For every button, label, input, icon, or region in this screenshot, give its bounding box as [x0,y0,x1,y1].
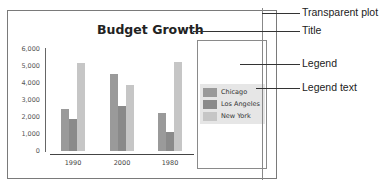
legend-item-chicago: Chicago [203,87,247,97]
legend-item-los-angeles: Los Angeles [203,99,260,109]
legend-label: New York [221,112,251,120]
bar-new-york-1980 [174,62,182,151]
bar-chicago-2000 [110,74,118,151]
legend-swatch [203,88,217,97]
y-tick-label: 5,000 [8,62,40,70]
legend: Chicago Los Angeles New York [200,84,265,124]
bar-los-angeles-2000 [118,106,126,151]
bar-new-york-2000 [126,85,134,151]
callout-legend: Legend [302,57,337,69]
bar-los-angeles-1980 [166,132,174,151]
y-axis [45,48,46,152]
legend-item-new-york: New York [203,111,251,121]
bar-chicago-1980 [158,113,166,151]
legend-label: Chicago [221,88,247,96]
x-axis [50,154,194,155]
y-tick-label: 1,000 [8,130,40,138]
bar-los-angeles-1990 [69,119,77,151]
callout-line-legend-text [256,88,300,89]
y-tick-label: 4,000 [8,79,40,87]
y-tick-label: 3,000 [8,96,40,104]
x-tick-label: 1990 [58,159,88,167]
y-tick-label: 2,000 [8,113,40,121]
legend-label: Los Angeles [221,100,260,108]
callout-line-transparent-plot [262,13,300,14]
callout-legend-text: Legend text [302,81,357,93]
x-tick-label: 2000 [107,159,137,167]
callout-transparent-plot: Transparent plot [302,6,378,18]
callout-title: Title [302,24,321,36]
x-tick-label: 1980 [155,159,185,167]
bar-chicago-1990 [61,109,69,151]
bar-new-york-1990 [77,63,85,151]
callout-line-title [193,31,300,32]
chart-title: Budget Growth [97,22,204,37]
callout-line-legend [240,64,300,65]
legend-swatch [203,100,217,109]
legend-swatch [203,112,217,121]
y-tick-label: 6,000 [8,45,40,53]
y-tick-label: 0 [8,147,40,155]
annotation-frame-edge [262,8,263,180]
